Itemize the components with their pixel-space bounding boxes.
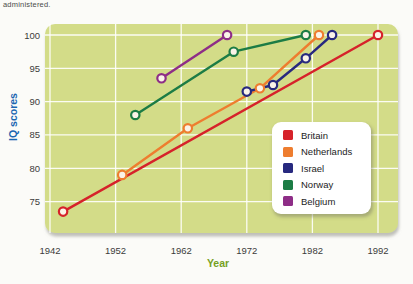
data-point-netherlands <box>315 31 323 39</box>
legend-item-israel: Israel <box>272 160 371 177</box>
belgium-color-swatch <box>283 196 293 206</box>
data-point-netherlands <box>256 84 264 92</box>
x-tick-label: 1982 <box>302 245 323 256</box>
data-point-britain <box>374 31 382 39</box>
data-point-belgium <box>223 31 231 39</box>
x-tick-label: 1942 <box>39 245 60 256</box>
data-point-norway <box>302 31 310 39</box>
data-point-netherlands <box>184 124 192 132</box>
x-tick-label: 1962 <box>171 245 192 256</box>
legend-label-netherlands: Netherlands <box>301 146 352 157</box>
legend-label-israel: Israel <box>301 163 324 174</box>
norway-color-swatch <box>283 180 293 190</box>
y-tick-label: 95 <box>29 63 40 74</box>
x-tick-label: 1952 <box>105 245 126 256</box>
x-tick-label: 1972 <box>236 245 257 256</box>
data-point-britain <box>59 207 67 215</box>
y-tick-label: 75 <box>29 196 40 207</box>
y-tick-label: 80 <box>29 163 40 174</box>
data-point-israel <box>302 54 310 62</box>
britain-color-swatch <box>283 130 293 140</box>
legend-label-norway: Norway <box>301 179 333 190</box>
data-point-belgium <box>157 74 165 82</box>
y-tick-label: 90 <box>29 96 40 107</box>
legend-item-norway: Norway <box>272 177 371 194</box>
y-tick-label: 100 <box>24 30 40 41</box>
legend-item-netherlands: Netherlands <box>272 144 371 161</box>
legend-item-belgium: Belgium <box>272 193 371 210</box>
x-tick-label: 1992 <box>367 245 388 256</box>
iq-trend-chart: 7580859095100194219521962197219821992 IQ… <box>0 0 413 284</box>
data-point-israel <box>243 87 251 95</box>
israel-color-swatch <box>283 163 293 173</box>
data-point-norway <box>230 48 238 56</box>
y-axis-title: IQ scores <box>7 67 19 167</box>
legend-item-britain: Britain <box>272 127 371 144</box>
data-point-israel <box>328 31 336 39</box>
legend: Britain Netherlands Israel Norway Belgiu… <box>272 122 371 214</box>
x-axis-title: Year <box>178 257 258 269</box>
netherlands-color-swatch <box>283 147 293 157</box>
y-tick-label: 85 <box>29 129 40 140</box>
legend-label-britain: Britain <box>301 130 328 141</box>
legend-label-belgium: Belgium <box>301 196 335 207</box>
data-point-israel <box>269 81 277 89</box>
data-point-netherlands <box>118 171 126 179</box>
data-point-norway <box>131 111 139 119</box>
